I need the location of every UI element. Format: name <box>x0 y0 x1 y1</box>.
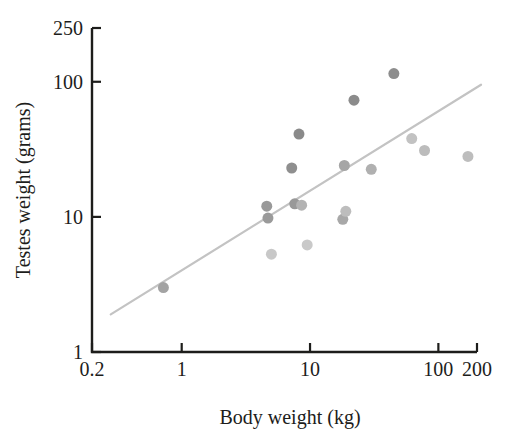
data-point <box>293 129 304 140</box>
data-point <box>286 163 297 174</box>
x-tick-label-100: 100 <box>423 358 453 380</box>
data-point <box>339 160 350 171</box>
y-axis-ticks <box>92 28 101 352</box>
data-point <box>388 68 399 79</box>
data-point <box>261 201 272 212</box>
data-points <box>158 68 474 293</box>
y-tick-label-10: 10 <box>63 206 83 228</box>
x-tick-label-0.2: 0.2 <box>80 358 105 380</box>
data-point <box>366 164 377 175</box>
plot-axes <box>92 28 477 352</box>
scatter-plot: 0.2110100200 110100250 Body weight (kg) … <box>0 0 516 446</box>
x-axis-ticks <box>92 343 477 352</box>
data-point <box>406 133 417 144</box>
x-axis-tick-labels: 0.2110100200 <box>80 358 493 380</box>
data-point <box>158 282 169 293</box>
x-tick-label-10: 10 <box>300 358 320 380</box>
x-tick-label-1: 1 <box>177 358 187 380</box>
data-point <box>340 206 351 217</box>
axis-frame <box>92 28 477 352</box>
x-axis-title: Body weight (kg) <box>219 406 360 429</box>
chart-figure: 0.2110100200 110100250 Body weight (kg) … <box>0 0 516 446</box>
data-point <box>296 200 307 211</box>
data-point <box>262 213 273 224</box>
x-tick-label-200: 200 <box>462 358 492 380</box>
y-axis-tick-labels: 110100250 <box>53 17 83 363</box>
y-tick-label-100: 100 <box>53 71 83 93</box>
data-point <box>348 95 359 106</box>
data-point <box>419 145 430 156</box>
data-point <box>302 239 313 250</box>
y-tick-label-250: 250 <box>53 17 83 39</box>
data-point <box>462 151 473 162</box>
y-tick-label-1: 1 <box>73 341 83 363</box>
y-axis-title: Testes weight (grams) <box>12 102 35 278</box>
data-point <box>266 249 277 260</box>
